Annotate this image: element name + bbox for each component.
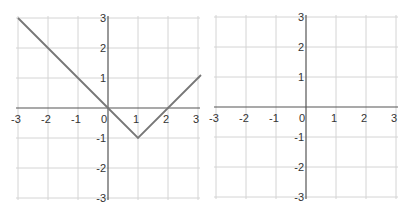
- x-tick-label: -2: [239, 112, 249, 124]
- x-tick-label: 0: [299, 112, 305, 124]
- x-tick-label: 3: [391, 112, 397, 124]
- x-tick-label: 3: [193, 113, 199, 125]
- y-tick-label: 2: [298, 41, 304, 53]
- x-tick-label: -3: [11, 113, 21, 125]
- x-tick-label: 0: [101, 113, 107, 125]
- x-tick-label: 1: [331, 112, 337, 124]
- x-tick-label: 1: [133, 113, 139, 125]
- x-tick-label: -2: [41, 113, 51, 125]
- x-tick-label: -1: [269, 112, 279, 124]
- x-tick-label: -1: [71, 113, 81, 125]
- y-tick-label: 3: [298, 11, 304, 23]
- y-tick-label: 1: [100, 72, 106, 84]
- y-tick-label: -1: [96, 132, 106, 144]
- y-tick-label: -3: [96, 192, 106, 204]
- y-tick-label: -1: [294, 131, 304, 143]
- graphs-canvas: -3-2-10123321-1-2-3-3-2-10123321-1-2-3: [0, 0, 413, 211]
- y-tick-label: -2: [294, 161, 304, 173]
- graph-2: -3-2-10123321-1-2-3: [209, 11, 398, 203]
- x-tick-label: -3: [209, 112, 219, 124]
- y-tick-label: -3: [294, 191, 304, 203]
- y-tick-label: 1: [298, 71, 304, 83]
- graph-1: -3-2-10123321-1-2-3: [11, 12, 201, 204]
- y-tick-label: 3: [100, 12, 106, 24]
- x-tick-label: 2: [163, 113, 169, 125]
- y-tick-label: 2: [100, 42, 106, 54]
- x-tick-label: 2: [361, 112, 367, 124]
- y-tick-label: -2: [96, 162, 106, 174]
